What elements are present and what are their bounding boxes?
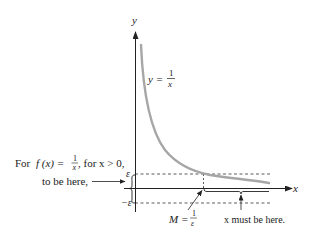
m-label-num: 1 xyxy=(192,209,196,218)
left-annotation-line2: to be here, xyxy=(42,175,88,187)
curve-label-num: 1 xyxy=(169,68,174,78)
curve-y-equals-1-over-x xyxy=(141,45,269,183)
left-annotation-fx: f (x) = xyxy=(36,157,64,170)
y-axis-label: y xyxy=(131,14,137,26)
x-region-label: x must be here. xyxy=(224,214,285,225)
x-range-brace xyxy=(204,189,269,195)
left-annotation-prefix: For xyxy=(15,157,31,169)
m-label-arrow xyxy=(188,191,202,211)
left-annotation-num: 1 xyxy=(73,154,77,163)
curve-label-lhs: y = xyxy=(147,73,163,85)
curve-label-den: x xyxy=(167,79,172,89)
left-annotation-suffix: , for x > 0, xyxy=(78,157,125,169)
limit-at-infinity-diagram: x y y = 1 x ε −ε For f (x) = 1 x , for x… xyxy=(0,0,317,234)
m-label-den: ε xyxy=(191,219,195,228)
epsilon-label: ε xyxy=(126,168,130,179)
left-annotation-den: x xyxy=(72,163,77,172)
x-axis-label: x xyxy=(292,182,298,194)
neg-epsilon-label: −ε xyxy=(121,197,132,208)
m-label-lhs: M = xyxy=(168,213,188,225)
